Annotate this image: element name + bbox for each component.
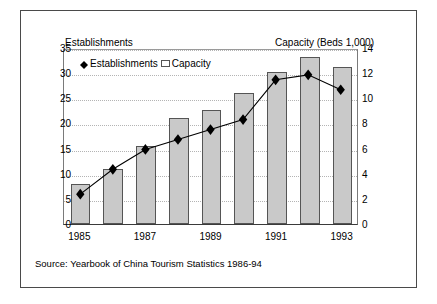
- left-tick-label: 5: [41, 195, 71, 205]
- x-tick-label: 1985: [59, 231, 99, 242]
- right-tick-label: 12: [362, 69, 392, 79]
- left-tick-label: 35: [41, 44, 71, 54]
- right-tick-label: 14: [362, 44, 392, 54]
- right-tick-label: 10: [362, 94, 392, 104]
- bar: [103, 169, 123, 224]
- right-tick-label: 0: [362, 220, 392, 230]
- left-tick-label: 25: [41, 94, 71, 104]
- left-axis-title: Establishments: [65, 37, 133, 48]
- left-tick-label: 15: [41, 145, 71, 155]
- bar-swatch-icon: [161, 60, 170, 67]
- diamond-marker-icon: [80, 57, 88, 65]
- legend-entry-capacity: Capacity: [158, 58, 211, 69]
- x-tick-label: 1987: [125, 231, 165, 242]
- left-tick-label: 20: [41, 119, 71, 129]
- right-tick-label: 8: [362, 119, 392, 129]
- right-tick-label: 2: [362, 195, 392, 205]
- bar: [136, 146, 156, 224]
- bar: [202, 110, 222, 224]
- x-tick-label: 1989: [191, 231, 231, 242]
- bar: [300, 57, 320, 224]
- bar: [169, 118, 189, 224]
- bar: [333, 67, 353, 224]
- bar: [234, 93, 254, 224]
- right-axis-title: Capacity (Beds 1,000): [275, 37, 374, 48]
- chart-frame: Establishments Capacity (Beds 1,000) Est…: [20, 10, 417, 288]
- gridline: [64, 50, 357, 51]
- right-tick-label: 6: [362, 145, 392, 155]
- x-tick-label: 1991: [256, 231, 296, 242]
- plot-area: Establishments Capacity: [63, 49, 358, 225]
- legend-entry-establishments: Establishments: [80, 58, 158, 69]
- bar: [71, 184, 91, 224]
- legend-label-establishments: Establishments: [90, 58, 158, 69]
- chart-legend: Establishments Capacity: [78, 57, 213, 70]
- legend-label-capacity: Capacity: [172, 58, 211, 69]
- left-tick-label: 30: [41, 69, 71, 79]
- right-tick-label: 4: [362, 170, 392, 180]
- left-tick-label: 0: [41, 220, 71, 230]
- bar: [267, 72, 287, 224]
- x-tick-label: 1993: [322, 231, 362, 242]
- left-tick-label: 10: [41, 170, 71, 180]
- source-note: Source: Yearbook of China Tourism Statis…: [35, 258, 262, 269]
